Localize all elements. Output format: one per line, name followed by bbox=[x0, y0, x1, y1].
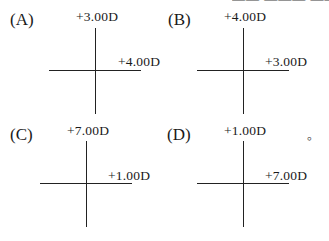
vertical-meridian-line bbox=[243, 28, 244, 114]
vertical-meridian-power: +7.00D bbox=[67, 124, 109, 138]
horizontal-meridian-power: +3.00D bbox=[265, 55, 307, 69]
horizontal-meridian-line bbox=[49, 70, 141, 71]
vertical-meridian-line bbox=[243, 141, 244, 227]
vertical-meridian-power: +4.00D bbox=[224, 10, 266, 24]
option-label: (B) bbox=[168, 11, 191, 28]
horizontal-meridian-line bbox=[197, 70, 289, 71]
period-mark: 。 bbox=[307, 126, 319, 144]
horizontal-meridian-power: +4.00D bbox=[118, 55, 160, 69]
horizontal-meridian-line bbox=[40, 183, 132, 184]
horizontal-meridian-power: +1.00D bbox=[108, 169, 150, 183]
option-label: (D) bbox=[167, 126, 191, 143]
vertical-meridian-power: +1.00D bbox=[224, 124, 266, 138]
vertical-meridian-line bbox=[95, 28, 96, 114]
horizontal-meridian-line bbox=[197, 183, 289, 184]
vertical-meridian-line bbox=[86, 141, 87, 227]
option-label: (A) bbox=[10, 11, 34, 28]
option-label: (C) bbox=[10, 126, 33, 143]
vertical-meridian-power: +3.00D bbox=[76, 10, 118, 24]
clipped-question-text: —— ——— ——— — bbox=[232, 0, 329, 3]
horizontal-meridian-power: +7.00D bbox=[265, 169, 307, 183]
